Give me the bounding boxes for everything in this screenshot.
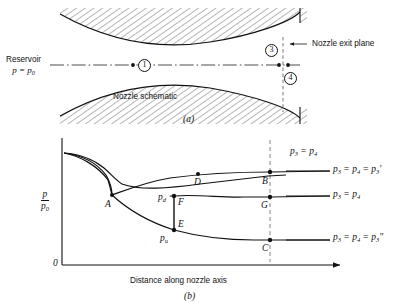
station-dot-3 [277,63,281,67]
curve-label-b: p3 = p4 = p3′ [333,165,381,175]
shock-downstream-pressure-label: pd [158,193,166,203]
data-point-E [172,228,176,232]
x-axis-label: Distance along nozzle axis [130,277,227,285]
nozzle-schematic [50,4,307,126]
reservoir-label-line2: p = p0 [6,65,41,76]
nozzle-figure: Reservoir p = p0 Nozzle schematic Nozzle… [0,0,398,308]
nozzle-lower-wall [55,74,305,126]
station-dot-1 [131,63,135,67]
panel-a-tag: (a) [183,115,194,125]
data-point-G [268,195,272,199]
nozzle-schematic-caption: Nozzle schematic [113,93,177,101]
curve-label-top: p3 = p4 [290,147,317,157]
panel-b-tag: (b) [184,292,195,302]
y-axis-denominator: p0 [41,201,49,211]
y-axis-label: p p0 [41,190,49,212]
station-dot-4 [286,63,290,67]
reservoir-label: Reservoir p = p0 [6,55,41,77]
curve-label-g: p3 = p4 [333,190,360,200]
y-axis-zero-tick: 0 [53,259,58,269]
point-label-E: E [178,220,184,230]
point-label-D: D [194,178,201,188]
point-label-B: B [262,177,268,187]
data-point-B [268,170,272,174]
data-point-F [172,194,176,198]
y-axis-numerator: p [41,190,49,201]
reservoir-label-line1: Reservoir [6,55,41,65]
reservoir-p0-sub: 0 [32,70,35,76]
point-label-F: F [178,198,184,208]
curve-label-c: p3 = p4 = p3″ [333,233,383,243]
point-label-G: G [261,201,268,211]
point-label-C: C [262,244,268,254]
point-label-A: A [105,200,111,210]
nozzle-exit-plane-label: Nozzle exit plane [312,40,374,48]
data-point-A [110,193,114,197]
station-marker-1: 1 [138,59,151,72]
station-marker-3: 3 [265,44,278,57]
reservoir-equals: = [17,65,28,75]
curve-subsonic-top [64,153,286,188]
y-axis-den-sub: 0 [46,205,49,212]
pu-sub: u [165,237,168,244]
pressure-chart [62,138,340,265]
nozzle-exit-wall [300,8,307,124]
data-point-D [196,172,200,176]
data-point-C [268,238,272,242]
shock-upstream-pressure-label: pu [160,234,168,244]
pd-sub: d [163,196,166,203]
station-marker-4: 4 [284,72,297,85]
